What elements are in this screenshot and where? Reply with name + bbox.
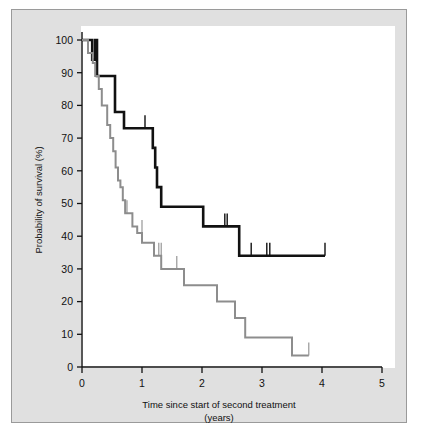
- y-tick-label: 50: [61, 197, 73, 209]
- y-axis-ticks: 0102030405060708090100: [55, 34, 82, 373]
- y-tick-label: 10: [61, 328, 73, 340]
- x-axis-ticks: 012345: [79, 367, 385, 389]
- y-tick-label: 40: [61, 230, 73, 242]
- y-tick-label: 100: [55, 34, 73, 46]
- x-tick-label: 3: [259, 377, 265, 389]
- x-tick-label: 2: [199, 377, 205, 389]
- x-axis-label-units: (years): [204, 412, 234, 423]
- y-tick-label: 80: [61, 99, 73, 111]
- x-axis-label: Time since start of second treatment: [142, 399, 296, 410]
- y-tick-label: 90: [61, 67, 73, 79]
- x-tick-label: 1: [139, 377, 145, 389]
- survival-plot: 0102030405060708090100 012345 Time since…: [0, 0, 421, 443]
- plot-area-background: [81, 26, 395, 368]
- x-tick-label: 5: [379, 377, 385, 389]
- x-tick-label: 0: [79, 377, 85, 389]
- y-tick-label: 70: [61, 132, 73, 144]
- y-axis-label: Probability of survival (%): [33, 146, 44, 253]
- figure-root: 0102030405060708090100 012345 Time since…: [0, 0, 421, 443]
- x-tick-label: 4: [319, 377, 325, 389]
- y-tick-label: 60: [61, 165, 73, 177]
- y-tick-label: 20: [61, 295, 73, 307]
- y-tick-label: 30: [61, 263, 73, 275]
- y-tick-label: 0: [67, 361, 73, 373]
